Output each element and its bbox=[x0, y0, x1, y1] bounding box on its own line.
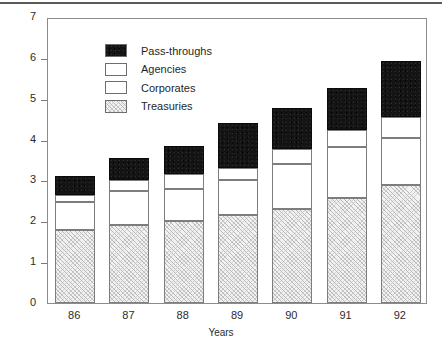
legend-swatch-icon bbox=[105, 81, 127, 94]
bar-segment-pass-throughs[interactable] bbox=[272, 108, 312, 148]
bar-segment-pass-throughs[interactable] bbox=[381, 61, 421, 117]
chart-legend: Pass-throughsAgenciesCorporatesTreasurie… bbox=[105, 42, 212, 116]
legend-item-pass-throughs[interactable]: Pass-throughs bbox=[105, 42, 212, 59]
legend-swatch-icon bbox=[105, 100, 127, 113]
y-tick-label: 2 bbox=[14, 214, 36, 226]
y-tick-label: 7 bbox=[14, 10, 36, 22]
y-tick-label: 3 bbox=[14, 173, 36, 185]
chart-figure: $ in Trillions 01234567 Pass-throughsAge… bbox=[0, 0, 442, 344]
legend-swatch-icon bbox=[105, 44, 127, 57]
y-tick-label: 1 bbox=[14, 255, 36, 267]
bar-segment-pass-throughs[interactable] bbox=[109, 158, 149, 181]
bar-stack-89[interactable] bbox=[218, 17, 258, 303]
legend-swatch-icon bbox=[105, 63, 127, 76]
bar-segment-pass-throughs[interactable] bbox=[218, 123, 258, 168]
legend-item-label: Pass-throughs bbox=[141, 45, 212, 57]
bar-segment-corporates[interactable] bbox=[381, 138, 421, 185]
x-tick-label-86: 86 bbox=[54, 309, 94, 321]
bar-segment-agencies[interactable] bbox=[164, 174, 204, 188]
x-axis-title: Years bbox=[0, 327, 442, 338]
bar-segment-agencies[interactable] bbox=[109, 180, 149, 190]
bar-stack-92[interactable] bbox=[381, 17, 421, 303]
bar-segment-corporates[interactable] bbox=[55, 202, 95, 230]
y-tick-label: 0 bbox=[14, 296, 36, 308]
bar-segment-agencies[interactable] bbox=[272, 149, 312, 164]
bar-stack-90[interactable] bbox=[272, 17, 312, 303]
plot-area: Pass-throughsAgenciesCorporatesTreasurie… bbox=[47, 18, 427, 304]
legend-item-label: Treasuries bbox=[141, 100, 193, 112]
bar-segment-treasuries[interactable] bbox=[218, 215, 258, 303]
bar-segment-corporates[interactable] bbox=[164, 189, 204, 221]
bar-segment-agencies[interactable] bbox=[327, 130, 367, 146]
x-tick-label-91: 91 bbox=[326, 309, 366, 321]
x-tick-label-89: 89 bbox=[217, 309, 257, 321]
bar-segment-corporates[interactable] bbox=[109, 191, 149, 225]
bar-segment-pass-throughs[interactable] bbox=[327, 88, 367, 130]
x-tick-label-90: 90 bbox=[271, 309, 311, 321]
bar-segment-agencies[interactable] bbox=[381, 117, 421, 137]
legend-item-treasuries[interactable]: Treasuries bbox=[105, 98, 212, 115]
bar-segment-treasuries[interactable] bbox=[164, 221, 204, 303]
x-tick-label-92: 92 bbox=[380, 309, 420, 321]
legend-item-label: Agencies bbox=[141, 63, 186, 75]
bar-segment-treasuries[interactable] bbox=[109, 225, 149, 303]
legend-item-corporates[interactable]: Corporates bbox=[105, 79, 212, 96]
bar-stack-91[interactable] bbox=[327, 17, 367, 303]
page-top-rule bbox=[0, 2, 442, 4]
y-tick-label: 5 bbox=[14, 92, 36, 104]
y-tick-label: 6 bbox=[14, 51, 36, 63]
bar-segment-treasuries[interactable] bbox=[327, 198, 367, 303]
x-tick-label-88: 88 bbox=[163, 309, 203, 321]
bar-segment-agencies[interactable] bbox=[218, 168, 258, 180]
y-tick-label: 4 bbox=[14, 133, 36, 145]
bar-segment-treasuries[interactable] bbox=[381, 185, 421, 303]
bar-segment-agencies[interactable] bbox=[55, 195, 95, 202]
bar-stack-86[interactable] bbox=[55, 17, 95, 303]
bar-segment-pass-throughs[interactable] bbox=[55, 176, 95, 195]
bar-segment-treasuries[interactable] bbox=[272, 209, 312, 303]
bar-segment-pass-throughs[interactable] bbox=[164, 146, 204, 175]
bar-segment-corporates[interactable] bbox=[327, 147, 367, 198]
bar-segment-corporates[interactable] bbox=[218, 180, 258, 214]
legend-item-label: Corporates bbox=[141, 82, 195, 94]
bar-segment-treasuries[interactable] bbox=[55, 230, 95, 303]
bar-segment-corporates[interactable] bbox=[272, 164, 312, 209]
legend-item-agencies[interactable]: Agencies bbox=[105, 61, 212, 78]
x-tick-label-87: 87 bbox=[108, 309, 148, 321]
